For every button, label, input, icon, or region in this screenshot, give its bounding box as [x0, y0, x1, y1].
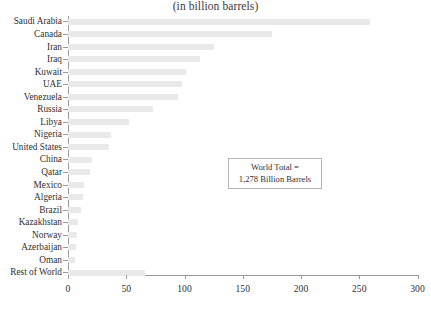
- plot-area: Saudi ArabiaCanadaIranIraqKuwaitUAEVenez…: [0, 0, 431, 310]
- bar: [68, 106, 153, 112]
- bar-row: Saudi Arabia: [0, 16, 431, 29]
- bar: [68, 169, 90, 175]
- x-axis-tick: [418, 275, 419, 279]
- bar: [68, 94, 178, 100]
- category-label: Iraq: [47, 54, 62, 64]
- x-axis-tick-label: 200: [294, 283, 308, 294]
- bar-row: Kuwait: [0, 67, 431, 80]
- category-label: China: [40, 154, 62, 164]
- bar-row: Brazil: [0, 205, 431, 218]
- bar: [68, 119, 129, 125]
- world-total-line-1: World Total =: [251, 162, 299, 174]
- x-axis-tick-label: 50: [121, 283, 131, 294]
- category-label: Algeria: [34, 192, 62, 202]
- x-axis-tick: [243, 275, 244, 279]
- bar: [68, 207, 81, 213]
- bar-row: Canada: [0, 29, 431, 42]
- category-label: Rest of World: [10, 267, 62, 277]
- bar-row: United States: [0, 142, 431, 155]
- x-axis-tick-label: 300: [410, 283, 424, 294]
- bar: [68, 31, 272, 37]
- x-axis-tick: [185, 275, 186, 279]
- x-axis-tick: [359, 275, 360, 279]
- bar: [68, 144, 109, 150]
- bar: [68, 244, 76, 250]
- bar: [68, 232, 77, 238]
- bar-row: Libya: [0, 117, 431, 130]
- bar-row: Iraq: [0, 54, 431, 67]
- category-label: United States: [12, 142, 62, 152]
- bar: [68, 257, 75, 263]
- x-axis-tick-label: 100: [177, 283, 191, 294]
- bar-row: Algeria: [0, 192, 431, 205]
- bar: [68, 157, 92, 163]
- x-axis-tick: [301, 275, 302, 279]
- category-label: Mexico: [34, 180, 62, 190]
- bar: [68, 132, 111, 138]
- bar-row: Rest of World: [0, 267, 431, 280]
- category-label: Azerbaijan: [21, 242, 62, 252]
- bar-row: China: [0, 154, 431, 167]
- bar-row: Iran: [0, 42, 431, 55]
- x-axis-tick: [68, 275, 69, 279]
- category-label: Libya: [40, 117, 62, 127]
- bar-row: Kazakhstan: [0, 217, 431, 230]
- category-label: Russia: [37, 104, 62, 114]
- category-label: Qatar: [41, 167, 62, 177]
- bar-row: UAE: [0, 79, 431, 92]
- bar: [68, 69, 186, 75]
- category-label: Oman: [39, 255, 62, 265]
- bar: [68, 219, 78, 225]
- bar: [68, 44, 214, 50]
- bar-row: Russia: [0, 104, 431, 117]
- bar-row: Oman: [0, 255, 431, 268]
- bar: [68, 56, 200, 62]
- category-label: Nigeria: [34, 129, 62, 139]
- bar-row: Qatar: [0, 167, 431, 180]
- category-label: Norway: [32, 230, 62, 240]
- category-label: Iran: [47, 42, 62, 52]
- bar-row: Azerbaijan: [0, 242, 431, 255]
- bar: [68, 19, 370, 25]
- category-label: Venezuela: [24, 92, 62, 102]
- bar-row: Nigeria: [0, 129, 431, 142]
- world-total-annotation: World Total = 1,278 Billion Barrels: [228, 158, 322, 189]
- x-axis-tick-label: 250: [352, 283, 366, 294]
- world-total-line-2: 1,278 Billion Barrels: [239, 174, 311, 186]
- category-label: Kuwait: [35, 67, 62, 77]
- category-label: Saudi Arabia: [14, 16, 62, 26]
- category-label: Kazakhstan: [19, 217, 62, 227]
- x-axis-tick-label: 150: [236, 283, 250, 294]
- x-axis-tick-label: 0: [66, 283, 71, 294]
- bar: [68, 182, 84, 188]
- x-axis-tick: [126, 275, 127, 279]
- category-label: Brazil: [39, 205, 62, 215]
- category-label: UAE: [43, 79, 62, 89]
- bar: [68, 270, 145, 276]
- oil-reserves-bar-chart: (in billion barrels) Saudi ArabiaCanadaI…: [0, 0, 431, 310]
- bar: [68, 81, 182, 87]
- bar-row: Norway: [0, 230, 431, 243]
- bar: [68, 194, 83, 200]
- bar-row: Venezuela: [0, 92, 431, 105]
- bar-row: Mexico: [0, 180, 431, 193]
- category-label: Canada: [34, 29, 62, 39]
